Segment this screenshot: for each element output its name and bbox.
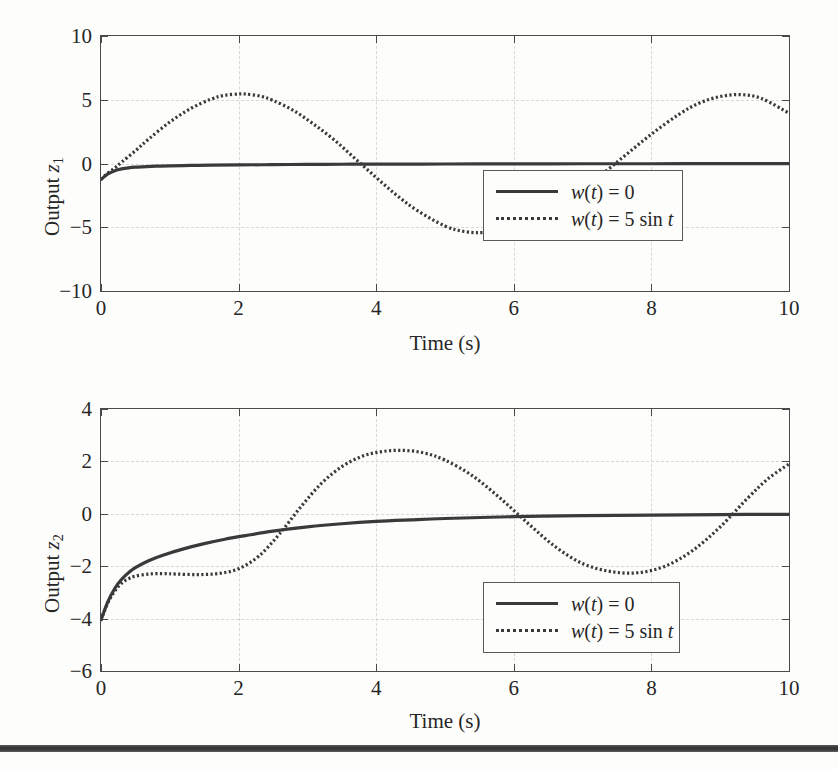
y-tick-label: 4 (82, 399, 93, 420)
chart-output-z2: Output z2 Time (s) 420−2−4−6 0246810 w(t… (0, 375, 838, 735)
x-tick-label: 4 (371, 678, 382, 699)
y-tick-label: −4 (70, 608, 92, 629)
legend: w(t) = 0 w(t) = 5 sin t (483, 582, 680, 653)
x-axis-title: Time (s) (410, 331, 481, 356)
series-canvas (101, 36, 789, 291)
plot-area: 1050−5−10 0246810 (100, 35, 790, 292)
x-tick-label: 2 (233, 678, 244, 699)
x-tick-label: 10 (779, 298, 800, 319)
x-tick-label: 8 (646, 298, 657, 319)
series-canvas (101, 409, 789, 671)
data-curves (101, 409, 789, 671)
legend-line-swatch-solid (496, 602, 558, 605)
y-tick-mark (782, 291, 789, 292)
series-line-dotted (101, 450, 789, 620)
y-tick-mark (101, 671, 108, 672)
legend-item: w(t) = 5 sin t (496, 205, 670, 232)
y-tick-label: 5 (82, 89, 93, 110)
x-tick-mark (789, 409, 790, 416)
legend-line-swatch-dotted (496, 217, 558, 220)
x-tick-mark (789, 664, 790, 671)
x-tick-label: 4 (371, 298, 382, 319)
series-line-solid (101, 514, 789, 620)
plot-area: 420−2−4−6 0246810 (100, 408, 790, 672)
y-tick-label: 0 (82, 503, 93, 524)
chart-output-z1: Output z1 Time (s) 1050−5−10 0246810 w(t… (0, 0, 838, 375)
x-tick-label: 0 (96, 678, 107, 699)
y-tick-mark (782, 671, 789, 672)
x-tick-label: 0 (96, 298, 107, 319)
y-axis-title: Output z1 (40, 157, 67, 236)
y-tick-label: −2 (70, 556, 92, 577)
legend-item: w(t) = 0 (496, 590, 667, 617)
y-tick-label: 10 (71, 26, 92, 47)
y-tick-label: 0 (82, 153, 93, 174)
y-tick-label: −10 (59, 281, 92, 302)
legend-label: w(t) = 0 (571, 594, 635, 614)
series-line-solid (101, 164, 789, 180)
x-tick-label: 10 (779, 678, 800, 699)
x-tick-label: 2 (233, 298, 244, 319)
legend-item: w(t) = 0 (496, 178, 670, 205)
legend-label: w(t) = 5 sin t (571, 209, 673, 229)
x-tick-mark (789, 284, 790, 291)
legend: w(t) = 0 w(t) = 5 sin t (483, 170, 683, 241)
legend-label: w(t) = 5 sin t (571, 621, 673, 641)
y-tick-mark (101, 291, 108, 292)
y-tick-label: 2 (82, 451, 93, 472)
x-tick-label: 8 (646, 678, 657, 699)
page-edge-artifact (0, 745, 838, 752)
x-tick-label: 6 (509, 678, 520, 699)
x-tick-label: 6 (509, 298, 520, 319)
y-tick-label: −6 (70, 661, 92, 682)
legend-line-swatch-dotted (496, 629, 558, 632)
legend-item: w(t) = 5 sin t (496, 617, 667, 644)
x-axis-title: Time (s) (410, 709, 481, 734)
y-tick-label: −5 (70, 217, 92, 238)
legend-line-swatch-solid (496, 190, 558, 193)
y-axis-title: Output z2 (40, 534, 67, 613)
legend-label: w(t) = 0 (571, 182, 635, 202)
data-curves (101, 36, 789, 291)
x-tick-mark (789, 36, 790, 43)
scanned-page: Output z1 Time (s) 1050−5−10 0246810 w(t… (0, 0, 838, 770)
